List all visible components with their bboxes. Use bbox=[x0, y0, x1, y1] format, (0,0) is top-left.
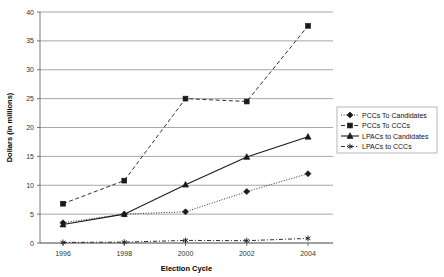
data-series-group bbox=[60, 23, 311, 245]
chart-legend: PCCs To CandidatesPCCs To CCCsLPACs to C… bbox=[337, 107, 437, 153]
y-tick-label-15: 15 bbox=[26, 153, 34, 160]
y-tick-label-5: 5 bbox=[30, 211, 34, 218]
legend-label-1: PCCs To CCCs bbox=[362, 122, 411, 129]
series-line-1 bbox=[63, 26, 308, 204]
legend-label-2: LPACs to Candidates bbox=[362, 133, 429, 140]
y-axis-tick-labels: 0510152025303540 bbox=[26, 9, 40, 247]
data-point-marker-s0-p4 bbox=[305, 171, 311, 177]
x-tick-label-2004: 2004 bbox=[300, 250, 316, 257]
y-tick-label-35: 35 bbox=[26, 37, 34, 44]
y-tick-label-20: 20 bbox=[26, 124, 34, 131]
series-pccs-to-cccs bbox=[61, 23, 311, 206]
data-point-marker-s1-p4 bbox=[306, 23, 311, 28]
y-tick-label-0: 0 bbox=[30, 240, 34, 247]
x-tick-label-2002: 2002 bbox=[239, 250, 255, 257]
y-tick-label-30: 30 bbox=[26, 66, 34, 73]
data-point-marker-s2-p4 bbox=[305, 134, 311, 140]
x-tick-label-2000: 2000 bbox=[178, 250, 194, 257]
x-axis-tick-labels: 19961998200020022004 bbox=[55, 243, 316, 257]
legend-label-0: PCCs To Candidates bbox=[362, 112, 427, 119]
data-point-marker-s1-p1 bbox=[122, 178, 127, 183]
y-tick-label-10: 10 bbox=[26, 182, 34, 189]
data-point-marker-sL-p1 bbox=[348, 123, 353, 128]
data-point-marker-s1-p0 bbox=[61, 201, 66, 206]
gridlines-group bbox=[40, 12, 333, 243]
x-axis-title: Election Cycle bbox=[161, 264, 212, 273]
x-tick-label-1998: 1998 bbox=[116, 250, 132, 257]
x-tick-label-1996: 1996 bbox=[55, 250, 71, 257]
y-tick-label-40: 40 bbox=[26, 9, 34, 16]
chart-container: 0510152025303540 19961998200020022004 PC… bbox=[0, 0, 444, 277]
y-tick-label-25: 25 bbox=[26, 95, 34, 102]
data-point-marker-s1-p2 bbox=[183, 96, 188, 101]
chart-plot-svg: 0510152025303540 19961998200020022004 PC… bbox=[0, 0, 444, 277]
series-pccs-to-candidates bbox=[60, 171, 311, 226]
data-point-marker-s0-p3 bbox=[244, 189, 250, 195]
legend-label-3: LPACs to CCCs bbox=[362, 143, 412, 150]
data-point-marker-s1-p3 bbox=[244, 99, 249, 104]
y-axis-title: Dollars (in millions) bbox=[5, 92, 14, 162]
